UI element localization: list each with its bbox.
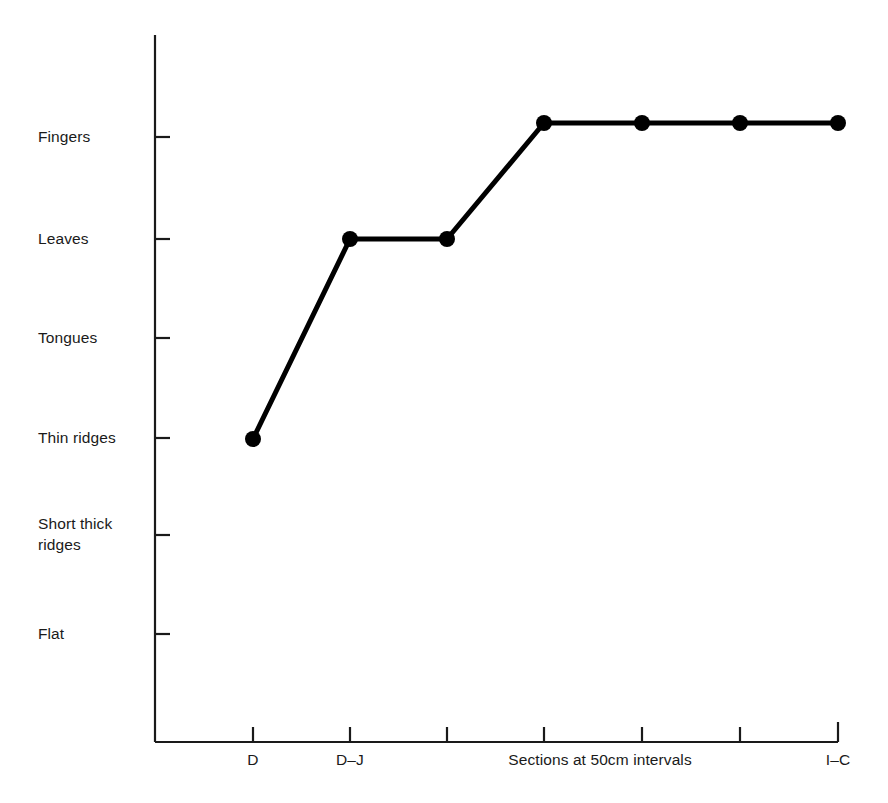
x-axis-ticks bbox=[253, 722, 838, 742]
y-axis-label-fingers: Fingers bbox=[38, 126, 142, 147]
y-axis-label-tongues: Tongues bbox=[38, 327, 142, 348]
line-chart-plot bbox=[0, 0, 888, 803]
data-point[interactable] bbox=[536, 115, 552, 131]
y-axis-label-flat: Flat bbox=[38, 623, 142, 644]
x-axis-caption: Sections at 50cm intervals bbox=[508, 750, 692, 770]
data-point[interactable] bbox=[342, 231, 358, 247]
y-axis-ticks bbox=[155, 137, 170, 634]
data-line-morphology bbox=[253, 123, 838, 439]
data-point[interactable] bbox=[439, 231, 455, 247]
data-markers bbox=[245, 115, 846, 447]
chart-figure: Fingers Leaves Tongues Thin ridges Short… bbox=[0, 0, 888, 803]
x-axis-label-ic: I–C bbox=[826, 750, 850, 770]
x-axis-label-d: D bbox=[247, 750, 258, 770]
data-point[interactable] bbox=[830, 115, 846, 131]
data-point[interactable] bbox=[634, 115, 650, 131]
x-axis-label-dj: D–J bbox=[336, 750, 364, 770]
data-point[interactable] bbox=[732, 115, 748, 131]
y-axis-label-short-thick-ridges: Short thick ridges bbox=[38, 513, 142, 555]
data-point[interactable] bbox=[245, 431, 261, 447]
y-axis-label-leaves: Leaves bbox=[38, 228, 142, 249]
y-axis-label-thin-ridges: Thin ridges bbox=[38, 427, 142, 448]
